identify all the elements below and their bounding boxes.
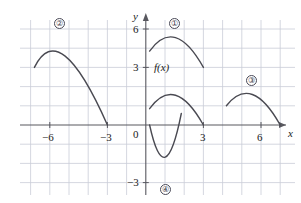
curve-badge-1: ① [169, 18, 180, 29]
x-axis [20, 122, 286, 128]
y-tick-label-minus3: −3 [127, 177, 139, 188]
curve-badge-4: ④ [160, 184, 171, 195]
function-label-fx: f(x) [154, 62, 169, 73]
curve-fx-path [150, 94, 204, 125]
grid-horizontal [20, 29, 295, 183]
x-tick-label-minus3: −3 [100, 132, 112, 143]
y-tick-label-3: 3 [133, 62, 139, 73]
curve-badge-3: ③ [246, 75, 257, 86]
y-axis [143, 13, 149, 195]
curve-badge-2: ② [54, 18, 65, 29]
y-axis-label: y [133, 11, 138, 22]
x-tick-label-6: 6 [257, 132, 263, 143]
curve-4-path [150, 114, 182, 158]
grid-vertical [31, 20, 281, 195]
y-tick-label-6: 6 [133, 24, 139, 35]
curve-2-path [34, 51, 107, 125]
x-tick-label-minus6: −6 [42, 132, 54, 143]
coordinate-plane [0, 0, 301, 203]
origin-label: 0 [133, 129, 139, 140]
x-tick-label-3: 3 [200, 132, 206, 143]
x-axis-label: x [288, 128, 293, 139]
curve-3-path [226, 93, 280, 125]
graph-figure: x y 0 −6 −3 3 6 6 3 −3 f(x) ① ② ③ ④ [0, 0, 301, 203]
